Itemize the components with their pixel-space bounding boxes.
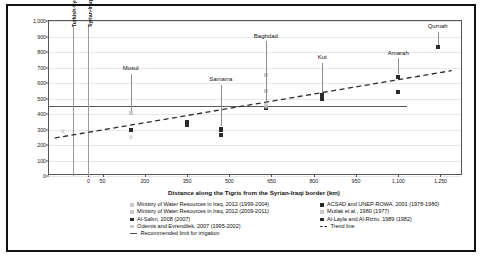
legend-column-right: ACSAD and UNEP-ROWA, 2001 (1978-1980)Mut…: [320, 202, 462, 246]
x-tick-mark: [229, 174, 230, 177]
callout-leader-line: [438, 32, 439, 45]
legend-square-icon: [320, 210, 324, 214]
x-tick-label: 800: [309, 178, 318, 184]
legend-item-label: Ministry of Water Resources in Iraq, 201…: [137, 209, 269, 215]
callout-leader-line: [266, 41, 267, 103]
legend-item[interactable]: Odemis and Evrendilek, 2007 (1995-2002): [130, 224, 310, 230]
legend-item[interactable]: Trend line: [320, 224, 462, 230]
y-tick-label: 1,000: [33, 18, 46, 24]
callout-leader-line: [131, 74, 132, 111]
legend-item[interactable]: Al-Salim, 2008 (2007): [130, 217, 310, 223]
city-label: Mosul: [123, 65, 139, 71]
legend-item[interactable]: Ministry of Water Resources in Iraq, 201…: [130, 209, 310, 215]
legend-item-label: Recommended limit for irrigation: [141, 231, 220, 237]
city-label: Samarra: [209, 76, 232, 82]
y-tick-label: 800: [37, 49, 46, 55]
x-axis-label: Distance along the Tigris from the Syria…: [48, 189, 460, 196]
legend-column-left: Ministry of Water Resources in Iraq, 201…: [130, 202, 310, 246]
trend-line: [49, 21, 349, 171]
y-tick-label: 200: [37, 142, 46, 148]
y-tick-label: 500: [37, 96, 46, 102]
y-tick-label: 300: [37, 127, 46, 133]
data-point: [219, 133, 223, 137]
y-tick-label: 600: [37, 80, 46, 86]
legend-square-icon: [130, 210, 134, 214]
x-tick-label: 50: [100, 178, 106, 184]
legend-item-label: Odemis and Evrendilek, 2007 (1995-2002): [137, 224, 240, 230]
legend-dashed-line-icon: [320, 226, 327, 227]
legend-item-label: Al-Layla and Al-Rizzo, 1989 (1982): [327, 217, 412, 223]
x-tick-label: 650: [267, 178, 276, 184]
x-tick-mark: [271, 174, 272, 177]
legend-square-icon: [320, 218, 324, 222]
data-point: [129, 128, 133, 132]
x-tick-mark: [440, 174, 441, 177]
data-point: [396, 75, 400, 79]
x-tick-mark: [314, 174, 315, 177]
data-point: [185, 120, 189, 124]
data-point: [396, 90, 400, 94]
legend-item[interactable]: Al-Layla and Al-Rizzo, 1989 (1982): [320, 217, 462, 223]
x-tick-mark: [103, 174, 104, 177]
legend-square-icon: [130, 203, 134, 207]
legend-square-icon: [320, 203, 324, 207]
legend-item-label: Al-Salim, 2008 (2007): [137, 217, 190, 223]
data-point: [129, 136, 132, 139]
x-tick-label: 200: [140, 178, 149, 184]
legend-solid-line-icon: [130, 233, 137, 234]
x-tick-label: 1,100: [392, 178, 405, 184]
data-point: [219, 127, 223, 131]
callout-leader-line: [221, 85, 222, 127]
x-tick-mark: [398, 174, 399, 177]
callout-leader-line: [322, 63, 323, 93]
legend-item-recommended-limit[interactable]: Recommended limit for irrigation: [130, 231, 310, 237]
plot-area: 01002003004005006007008009001,000 050200…: [48, 20, 462, 175]
legend-item-label: Mutlak et al., 1980 (1977): [327, 209, 389, 215]
legend-square-icon: [130, 218, 134, 222]
legend-item[interactable]: Mutlak et al., 1980 (1977): [320, 209, 462, 215]
legend-item[interactable]: Ministry of Water Resources in Iraq, 201…: [130, 202, 310, 208]
city-label: Qurnah: [428, 23, 448, 29]
city-label: Amarah: [388, 50, 409, 56]
data-point: [320, 94, 324, 98]
x-tick-label: 350: [183, 178, 192, 184]
callout-leader-line: [398, 58, 399, 74]
x-tick-label: 1,250: [434, 178, 447, 184]
legend-item-label: ACSAD and UNEP-ROWA, 2001 (1978-1980): [327, 202, 439, 208]
legend-item[interactable]: ACSAD and UNEP-ROWA, 2001 (1978-1980): [320, 202, 462, 208]
y-tick-label: 700: [37, 65, 46, 71]
y-tick-label: 900: [37, 34, 46, 40]
x-tick-label: 950: [352, 178, 361, 184]
y-tick-label: 100: [37, 158, 46, 164]
y-tick-mark: [46, 176, 49, 177]
x-tick-mark: [356, 174, 357, 177]
data-point: [129, 111, 133, 115]
x-tick-label: 500: [225, 178, 234, 184]
legend-item-label: Trend line: [330, 224, 354, 230]
data-point: [61, 130, 64, 133]
x-tick-mark: [145, 174, 146, 177]
legend-square-icon: [130, 225, 134, 229]
y-tick-label: 400: [37, 111, 46, 117]
city-label: Baghdad: [254, 33, 278, 39]
city-label: Kut: [318, 54, 327, 60]
x-tick-mark: [187, 174, 188, 177]
figure-container: TDS (ppm) 01002003004005006007008009001,…: [6, 4, 476, 252]
x-tick-label: 0: [87, 178, 90, 184]
data-point: [264, 106, 267, 109]
plot-inner: 01002003004005006007008009001,000 050200…: [49, 21, 461, 174]
legend: Ministry of Water Resources in Iraq, 201…: [48, 202, 462, 246]
legend-item-label: Ministry of Water Resources in Iraq, 201…: [137, 202, 269, 208]
data-point: [436, 45, 440, 49]
